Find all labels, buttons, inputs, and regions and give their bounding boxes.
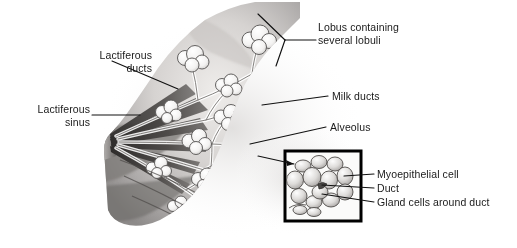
lobule-detail-inset (285, 151, 361, 221)
label-lobus: Lobus containing several lobuli (318, 21, 399, 46)
label-alveolus: Alveolus (330, 121, 371, 134)
label-lactiferous-sinus: Lactiferous sinus (0, 103, 90, 128)
anatomy-figure: Lactiferous ducts Lactiferous sinus Lobu… (0, 0, 517, 248)
label-myoepithelial-cell: Myoepithelial cell (377, 168, 459, 181)
label-lactiferous-ducts: Lactiferous ducts (34, 49, 152, 74)
label-duct: Duct (377, 182, 399, 195)
label-milk-ducts: Milk ducts (332, 90, 380, 103)
label-gland-cells-around-duct: Gland cells around duct (377, 196, 490, 209)
